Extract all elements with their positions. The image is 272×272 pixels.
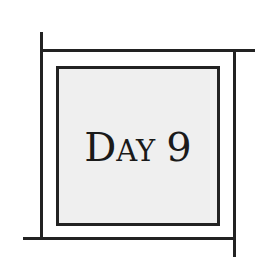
day-badge-box: Day9 bbox=[56, 66, 220, 226]
frame-top-line bbox=[41, 49, 255, 52]
frame-right-line bbox=[233, 50, 236, 257]
day-number: 9 bbox=[166, 124, 191, 170]
frame-left-line bbox=[40, 32, 43, 239]
frame-bottom-line bbox=[23, 237, 234, 240]
day-label: Day9 bbox=[84, 127, 191, 167]
day-label-rest: ay bbox=[116, 134, 155, 168]
day-label-initial: D bbox=[84, 124, 116, 170]
